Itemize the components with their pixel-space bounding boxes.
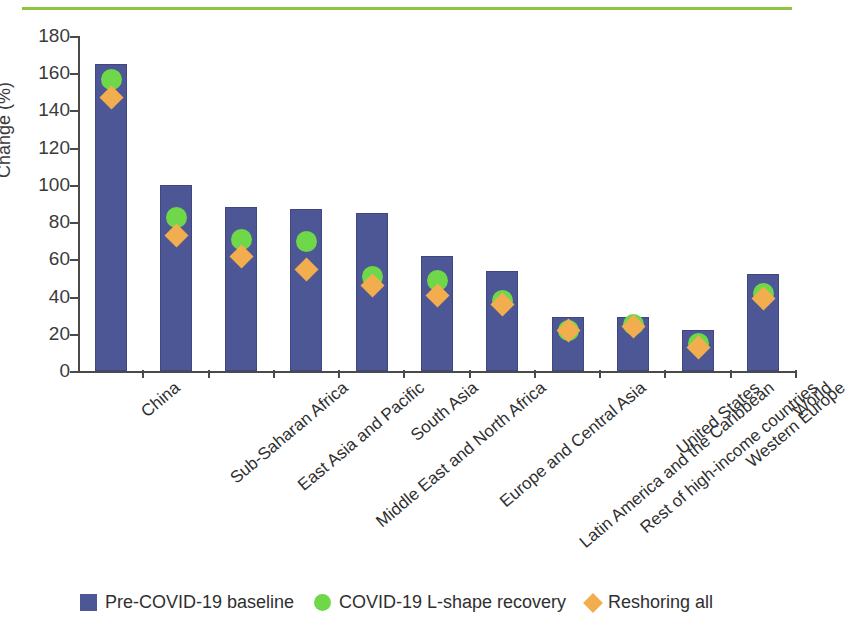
y-axis-tick-label: 120: [18, 137, 70, 159]
legend-label-baseline: Pre-COVID-19 baseline: [105, 592, 294, 613]
legend-label-lshape: COVID-19 L-shape recovery: [339, 592, 566, 613]
plot-area: [78, 36, 796, 371]
x-axis-tick: [273, 370, 275, 378]
y-axis-tick: [70, 371, 79, 373]
bar-slot: [404, 36, 469, 371]
x-axis-tick: [664, 370, 666, 378]
y-axis-title: Change (%): [0, 82, 15, 178]
bar-slot: [274, 36, 339, 371]
x-axis-category-labels: ChinaSub-Saharan AfricaEast Asia and Pac…: [78, 378, 796, 528]
bar-slot: [731, 36, 796, 371]
y-axis-tick-label: 140: [18, 99, 70, 121]
bar-slot: [143, 36, 208, 371]
legend-label-reshoring: Reshoring all: [608, 592, 713, 613]
x-axis-tick: [534, 370, 536, 378]
y-axis-tick-label: 80: [18, 211, 70, 233]
bar-slot: [665, 36, 730, 371]
y-axis-tick-label: 160: [18, 62, 70, 84]
bar[interactable]: [486, 271, 518, 372]
bar-slot: [600, 36, 665, 371]
y-axis-tick-labels: 020406080100120140160180: [18, 36, 70, 372]
y-axis-tick-label: 20: [18, 323, 70, 345]
y-axis-tick-label: 60: [18, 248, 70, 270]
x-axis-label: China: [137, 378, 184, 422]
x-axis-line: [78, 371, 796, 373]
x-axis-label: East Asia and Pacific: [294, 378, 428, 495]
bar-slot: [339, 36, 404, 371]
y-axis-tick-label: 0: [18, 360, 70, 382]
y-axis-tick-label: 180: [18, 25, 70, 47]
y-axis-tick-label: 100: [18, 174, 70, 196]
legend-item-baseline: Pre-COVID-19 baseline: [80, 592, 294, 613]
legend-item-lshape: COVID-19 L-shape recovery: [314, 592, 566, 613]
legend-square-icon: [80, 594, 97, 611]
y-axis-tick-label: 40: [18, 286, 70, 308]
bar-slot: [209, 36, 274, 371]
x-axis-tick: [599, 370, 601, 378]
top-rule-divider: [22, 7, 792, 10]
legend-diamond-icon: [583, 593, 603, 613]
legend-circle-icon: [314, 594, 331, 611]
bar-slot: [470, 36, 535, 371]
x-axis-tick: [142, 370, 144, 378]
legend-item-reshoring: Reshoring all: [586, 592, 713, 613]
x-axis-tick: [208, 370, 210, 378]
chart-legend: Pre-COVID-19 baseline COVID-19 L-shape r…: [0, 592, 806, 613]
bar[interactable]: [95, 64, 127, 371]
x-axis-tick: [795, 370, 797, 378]
bar-slot: [535, 36, 600, 371]
bar-slot: [78, 36, 143, 371]
x-axis-tick: [403, 370, 405, 378]
x-axis-tick: [730, 370, 732, 378]
